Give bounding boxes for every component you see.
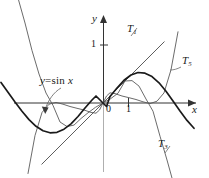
annotation-arrow-icon: [42, 107, 49, 115]
y-tick-label-1: 1: [91, 39, 96, 49]
x-tick-label-1: 1: [126, 104, 131, 114]
curve-label-t1: T1: [127, 23, 137, 34]
origin-label: 0: [106, 104, 111, 114]
curve-label-t3: T3: [158, 138, 168, 149]
t3-sub: 3: [164, 143, 167, 150]
x-axis-label: x: [192, 104, 197, 115]
equation-label: y=sin x: [40, 75, 73, 86]
t1-sub: 1: [133, 28, 136, 35]
curve-t3: [18, 0, 172, 178]
taylor-polynomial-figure: y x 0 1 1 y=sin x T1 T5 T3: [0, 0, 209, 178]
curve-label-t5: T5: [182, 55, 192, 66]
t5-sub: 5: [188, 60, 191, 67]
y-axis-label: y: [92, 13, 97, 24]
y-axis-arrow-icon: [100, 15, 107, 23]
figure-canvas: [0, 0, 209, 178]
equation-fn: sin: [52, 74, 65, 86]
equation-arg: x: [68, 74, 73, 86]
